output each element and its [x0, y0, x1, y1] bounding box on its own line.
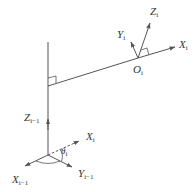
- label-x-i-projected: Xi: [86, 131, 95, 144]
- x-prev-axis-arrow: [25, 155, 48, 166]
- label-o-i: Oi: [133, 64, 143, 77]
- y-i-axis-arrow: [131, 42, 138, 58]
- x-i-axis-arrow: [138, 47, 175, 58]
- right-angle-marker-lower: [48, 76, 56, 83]
- label-z-i: Zi: [150, 6, 158, 19]
- label-x-prev: Xi−1: [12, 174, 28, 187]
- label-z-prev: Zi−1: [24, 112, 40, 125]
- label-x-i: Xi: [179, 39, 188, 52]
- label-theta-i: θi: [61, 147, 67, 158]
- link-line: [48, 58, 138, 86]
- dh-frame-diagram: [0, 0, 195, 192]
- base-sweep: [36, 161, 60, 164]
- label-y-i: Yi: [117, 29, 125, 42]
- label-y-prev: Yi−1: [78, 168, 94, 181]
- right-angle-marker-upper: [141, 48, 149, 55]
